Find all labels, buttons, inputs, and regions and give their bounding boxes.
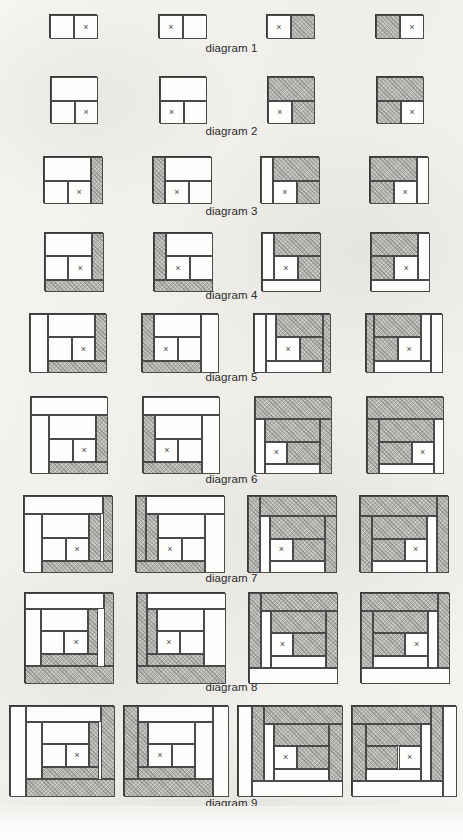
- fabric-strip-strip-f: [366, 314, 374, 373]
- center-x-icon: ×: [420, 448, 425, 457]
- fabric-strip-strip-b: [45, 233, 92, 256]
- fabric-strip-strip-h: [249, 593, 261, 668]
- fabric-strip-strip-i: [252, 781, 343, 797]
- fabric-strip-strip-c: [361, 611, 373, 668]
- fabric-strip-strip-e: [427, 516, 437, 573]
- quilt-block: ×: [369, 156, 428, 203]
- fabric-strip-strip-c: [262, 233, 274, 280]
- fabric-strip-strip-b: [270, 516, 325, 538]
- fabric-strip-strip-a: [42, 538, 65, 561]
- quilt-block: ×: [49, 14, 97, 38]
- quilt-block: ×: [248, 592, 337, 683]
- fabric-strip-strip-i: [352, 781, 443, 797]
- center-x-icon: ×: [169, 108, 174, 117]
- quilt-block: ×: [24, 592, 113, 683]
- diagram-row-6: ××××diagram 6: [0, 396, 463, 491]
- fabric-strip-strip-c: [153, 157, 165, 204]
- fabric-strip-strip-b: [155, 415, 202, 438]
- center-square: ×: [64, 631, 87, 653]
- fabric-strip-strip-a: [370, 181, 394, 205]
- center-x-icon: ×: [279, 545, 284, 554]
- fabric-strip-strip-g: [352, 706, 431, 724]
- diagram-row-9: ××××diagram 9: [0, 705, 463, 815]
- quilt-block: ×: [29, 313, 106, 372]
- center-square: ×: [274, 256, 297, 279]
- quilt-block: ×: [141, 313, 218, 372]
- center-square: ×: [73, 439, 96, 462]
- fabric-strip-strip-a: [183, 15, 207, 39]
- center-square: ×: [412, 442, 434, 464]
- fabric-strip-strip-c: [96, 415, 108, 462]
- fabric-strip-strip-j: [213, 706, 229, 797]
- fabric-strip-strip-a: [291, 15, 315, 39]
- quilt-block: ×: [365, 313, 442, 372]
- fabric-strip-strip-a: [48, 337, 71, 360]
- fabric-strip-strip-a: [372, 539, 404, 561]
- fabric-strip-strip-a: [45, 256, 68, 279]
- fabric-strip-strip-c: [325, 516, 337, 573]
- fabric-strip-strip-b: [379, 419, 434, 441]
- quilt-block: ×: [247, 495, 336, 572]
- diagram-caption: diagram 3: [0, 205, 463, 217]
- fabric-strip-strip-i: [124, 779, 213, 797]
- fabric-strip-strip-e: [205, 514, 225, 573]
- fabric-strip-strip-a: [172, 744, 195, 766]
- center-x-icon: ×: [175, 264, 180, 273]
- center-square: ×: [276, 337, 299, 360]
- fabric-strip-strip-b: [373, 611, 428, 633]
- fabric-strip-strip-e: [195, 722, 213, 779]
- center-x-icon: ×: [166, 638, 171, 647]
- fabric-strip-strip-e: [421, 724, 431, 781]
- center-square: ×: [267, 15, 291, 39]
- fabric-strip-strip-c: [89, 722, 99, 766]
- fabric-strip-strip-c: [146, 514, 158, 561]
- fabric-strip-strip-a: [300, 337, 323, 360]
- fabric-strip-strip-b: [276, 314, 323, 337]
- center-square: ×: [405, 539, 427, 561]
- fabric-strip-strip-c: [360, 516, 372, 573]
- fabric-strip-strip-b: [273, 157, 320, 181]
- quilt-block: ×: [23, 495, 112, 572]
- diagram-caption: diagram 2: [0, 125, 463, 137]
- fabric-strip-strip-h: [431, 706, 443, 781]
- diagram-caption: diagram 4: [0, 289, 463, 301]
- center-x-icon: ×: [274, 448, 279, 457]
- fabric-strip-strip-j: [238, 706, 252, 797]
- fabric-strip-strip-g: [24, 496, 103, 514]
- quilt-block: ×: [43, 156, 102, 203]
- fabric-strip-strip-e: [24, 514, 42, 573]
- center-square: ×: [270, 539, 292, 561]
- center-square: ×: [273, 181, 297, 205]
- center-square: ×: [158, 538, 181, 561]
- fabric-strip-strip-j: [10, 706, 26, 797]
- center-x-icon: ×: [157, 751, 162, 760]
- fabric-strip-strip-a: [182, 538, 205, 561]
- fabric-strip-strip-c: [91, 157, 103, 204]
- fabric-strip-strip-a: [371, 256, 394, 279]
- fabric-strip-strip-d: [42, 767, 99, 779]
- center-x-icon: ×: [283, 264, 288, 273]
- fabric-strip-strip-a: [50, 15, 74, 39]
- fabric-strip-strip-c: [147, 609, 157, 653]
- fabric-strip-strip-c: [92, 233, 104, 280]
- center-x-icon: ×: [413, 545, 418, 554]
- fabric-strip-strip-c: [352, 724, 366, 781]
- center-x-icon: ×: [403, 264, 408, 273]
- center-square: ×: [394, 256, 417, 279]
- fabric-strip-strip-e: [261, 611, 271, 668]
- fabric-strip-strip-a: [298, 256, 321, 279]
- fabric-strip-strip-c: [418, 233, 430, 280]
- center-square: ×: [155, 439, 178, 462]
- fabric-strip-strip-b: [44, 157, 91, 181]
- fabric-strip-strip-h: [103, 496, 113, 561]
- fabric-strip-strip-a: [178, 337, 201, 360]
- fabric-strip-strip-e: [204, 609, 226, 666]
- fabric-strip-strip-b: [372, 516, 427, 538]
- center-x-icon: ×: [77, 264, 82, 273]
- fabric-strip-strip-b: [377, 77, 424, 101]
- fabric-strip-strip-b: [41, 609, 88, 631]
- fabric-strip-strip-h: [124, 706, 138, 779]
- quilt-block: ×: [123, 705, 228, 796]
- diagram-caption: diagram 1: [0, 42, 463, 54]
- fabric-strip-strip-h: [438, 593, 450, 668]
